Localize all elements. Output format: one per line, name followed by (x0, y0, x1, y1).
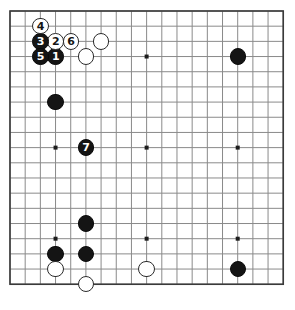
stone-black-1: 1 (47, 48, 63, 64)
stone-black (78, 215, 94, 231)
star-point (145, 237, 149, 241)
stone-white (93, 33, 109, 49)
stone-black-3: 3 (32, 33, 48, 49)
move-number-label: 3 (37, 36, 44, 47)
stone-black (47, 94, 63, 110)
star-point (236, 146, 240, 150)
stone-white (47, 261, 63, 277)
star-point (145, 146, 149, 150)
move-number-label: 4 (37, 21, 44, 32)
star-point (236, 237, 240, 241)
move-number-label: 6 (67, 36, 74, 47)
star-point (145, 55, 149, 59)
stone-black-7: 7 (78, 139, 94, 155)
stone-black (47, 246, 63, 262)
stone-white (78, 48, 94, 64)
stone-black (230, 261, 246, 277)
star-point (54, 146, 58, 150)
move-number-label: 1 (52, 51, 59, 62)
stone-black-5: 5 (32, 48, 48, 64)
move-number-label: 2 (52, 36, 59, 47)
stone-white-2: 2 (47, 33, 63, 49)
stone-white-6: 6 (63, 33, 79, 49)
go-board-diagram: 1234567 (0, 0, 295, 310)
stone-white-4: 4 (32, 18, 48, 34)
stone-black (230, 48, 246, 64)
move-number-label: 5 (37, 51, 44, 62)
stone-black (78, 246, 94, 262)
stone-white (138, 261, 154, 277)
move-number-label: 7 (82, 142, 89, 153)
star-point (54, 237, 58, 241)
